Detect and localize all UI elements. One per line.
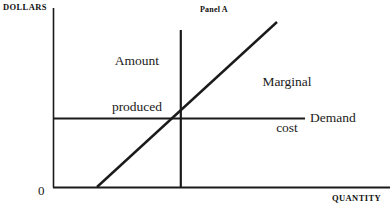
marginal-cost-label-line1: Marginal xyxy=(256,74,318,89)
marginal-cost-label-line2: cost xyxy=(256,120,318,135)
origin-label: 0 xyxy=(38,184,45,199)
amount-produced-label: Amount produced xyxy=(97,23,177,144)
x-axis-title: QUANTITY xyxy=(332,194,381,204)
marginal-cost-label: Marginal cost xyxy=(256,44,318,165)
economics-figure-panel-a: DOLLARS QUANTITY Panel A Amount produced… xyxy=(0,0,392,207)
panel-caption: Panel A xyxy=(200,6,228,15)
amount-produced-label-line2: produced xyxy=(97,99,177,114)
demand-label: Demand xyxy=(310,110,356,125)
amount-produced-label-line1: Amount xyxy=(97,53,177,68)
y-axis-title: DOLLARS xyxy=(3,3,47,13)
figure-canvas xyxy=(0,0,392,207)
